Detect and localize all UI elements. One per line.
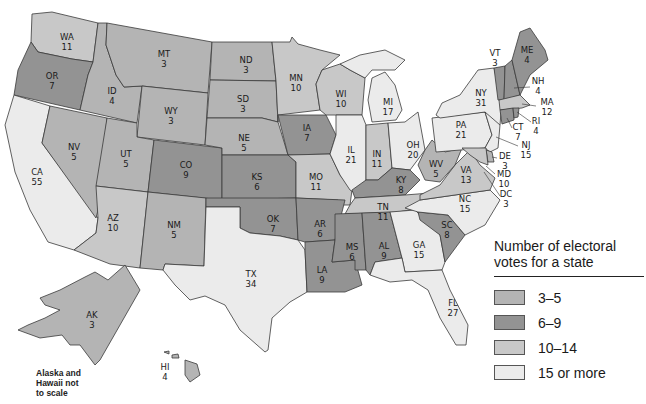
svg-text:MD10: MD10	[497, 169, 511, 189]
svg-text:VA13: VA13	[460, 165, 471, 185]
svg-text:GA15: GA15	[413, 240, 426, 260]
alaska-hawaii-note: Alaska and Hawaii not to scale	[36, 368, 106, 398]
svg-text:NJ15: NJ15	[521, 140, 532, 160]
svg-text:WI10: WI10	[336, 89, 347, 109]
legend-swatch	[494, 340, 525, 355]
svg-text:NY31: NY31	[475, 88, 487, 108]
svg-text:TN11: TN11	[376, 202, 389, 222]
legend-item-10-14: 10–14	[494, 335, 644, 360]
legend-label: 3–5	[538, 290, 561, 306]
legend-item-6-9: 6–9	[494, 310, 644, 335]
svg-text:OH20: OH20	[406, 140, 419, 160]
svg-text:CA55: CA55	[31, 167, 43, 187]
legend-item-15-plus: 15 or more	[494, 360, 644, 385]
svg-text:MN10: MN10	[289, 73, 303, 93]
svg-text:PA21: PA21	[456, 120, 467, 140]
note-line: Hawaii not	[36, 378, 106, 388]
svg-text:CT7: CT7	[512, 122, 524, 142]
svg-text:MI17: MI17	[383, 97, 394, 117]
state-ak	[18, 265, 140, 365]
legend-label: 6–9	[538, 315, 561, 331]
note-line: to scale	[36, 388, 106, 398]
svg-text:MA12: MA12	[540, 97, 553, 117]
legend-title-line: votes for a state	[494, 254, 644, 270]
legend-title: Number of electoral votes for a state	[494, 238, 644, 277]
svg-text:NH4: NH4	[532, 76, 545, 96]
legend-label: 15 or more	[538, 365, 606, 381]
svg-text:IN11: IN11	[372, 149, 383, 169]
svg-text:TX34: TX34	[244, 269, 256, 289]
legend-swatch	[494, 315, 525, 330]
svg-text:DC3: DC3	[500, 189, 513, 209]
svg-text:RI4: RI4	[532, 116, 540, 136]
legend-item-3-5: 3–5	[494, 285, 644, 310]
svg-text:AZ10: AZ10	[107, 213, 119, 233]
svg-text:NC15: NC15	[459, 194, 471, 214]
svg-text:DE3: DE3	[499, 151, 511, 171]
legend-label: 10–14	[538, 340, 577, 356]
svg-text:FL27: FL27	[448, 298, 459, 318]
svg-text:WA11: WA11	[60, 32, 74, 52]
legend-swatch	[494, 365, 525, 380]
legend-swatch	[494, 290, 525, 305]
svg-text:VT3: VT3	[489, 48, 501, 68]
legend: Number of electoral votes for a state 3–…	[494, 238, 644, 385]
svg-text:HI4: HI4	[161, 362, 170, 382]
note-line: Alaska and	[36, 368, 106, 378]
legend-title-line: Number of electoral	[494, 238, 644, 254]
svg-text:MO11: MO11	[309, 172, 323, 192]
